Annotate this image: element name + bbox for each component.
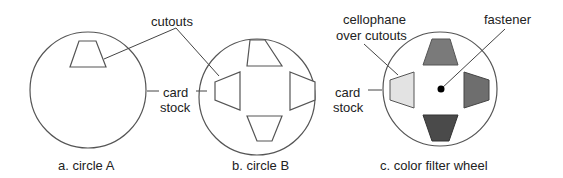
caption-b: b. circle B (232, 158, 289, 173)
caption-a: a. circle A (58, 158, 115, 173)
panel-a: a. circle A (30, 32, 146, 173)
label-cellophane-2: over cutouts (336, 28, 407, 43)
shared-labels: cutouts card stock (104, 14, 219, 115)
label-card-stock-c-2: stock (333, 100, 364, 115)
filter-top (423, 39, 458, 65)
filter-bottom (423, 115, 458, 141)
filter-right (464, 72, 489, 108)
fastener-dot (438, 86, 445, 93)
label-cutouts: cutouts (151, 14, 193, 29)
cutout-b-top (247, 40, 282, 66)
leader-cutouts (104, 28, 219, 76)
leader-cellophane (364, 44, 398, 75)
panel-b: b. circle B (199, 39, 315, 173)
cutout-b-left (215, 72, 240, 110)
cutout-a (70, 41, 106, 67)
label-card-stock-c-1: card (335, 85, 360, 100)
caption-c: c. color filter wheel (380, 158, 488, 173)
label-card-stock-1: card (163, 85, 188, 100)
label-cellophane-1: cellophane (343, 12, 406, 27)
label-card-stock-2: stock (160, 100, 191, 115)
filter-left (390, 72, 414, 108)
panel-c: cellophane over cutouts card stock faste… (333, 12, 532, 173)
filter-wheel-diagram: a. circle A cutouts card stock b. circle… (0, 0, 563, 178)
label-fastener: fastener (484, 12, 532, 27)
cutout-b-bottom (247, 116, 282, 141)
